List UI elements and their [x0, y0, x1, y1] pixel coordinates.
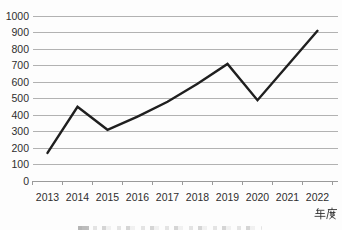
x-axis-unit-label [315, 208, 337, 219]
x-axis-tick-label: 2015 [96, 191, 120, 203]
y-axis-tick-label: 800 [11, 43, 29, 55]
x-axis-tick-label: 2014 [66, 191, 90, 203]
y-axis-tick-label: 300 [11, 125, 29, 137]
cropped-caption-first-glyph [78, 226, 89, 230]
y-axis-tick-label: 500 [11, 92, 29, 104]
y-axis-tick-label: 900 [11, 26, 29, 38]
y-axis-tick-label: 1000 [6, 10, 30, 22]
x-axis-tick-label: 2018 [186, 191, 210, 203]
cropped-caption-strip [78, 226, 262, 230]
line-chart: 0100200300400500600700800900100020132014… [0, 0, 342, 226]
y-axis-tick-label: 400 [11, 109, 29, 121]
x-axis-tick-label: 2019 [216, 191, 240, 203]
y-axis-tick-label: 600 [11, 76, 29, 88]
x-axis-unit-label-char [327, 208, 337, 219]
glyph-stroke [327, 210, 329, 219]
x-axis-tick-label: 2013 [36, 191, 60, 203]
x-axis-tick-label: 2016 [126, 191, 150, 203]
y-axis-tick-label: 100 [11, 158, 29, 170]
x-axis-tick-label: 2021 [276, 191, 300, 203]
y-axis-tick-label: 700 [11, 59, 29, 71]
y-axis-tick-label: 0 [23, 175, 29, 187]
x-axis-tick-label: 2022 [306, 191, 330, 203]
y-axis-tick-label: 200 [11, 142, 29, 154]
x-axis-unit-label-char [315, 208, 325, 219]
chart-figure: 0100200300400500600700800900100020132014… [0, 0, 342, 230]
x-axis-tick-label: 2017 [156, 191, 180, 203]
x-axis-tick-label: 2020 [246, 191, 270, 203]
